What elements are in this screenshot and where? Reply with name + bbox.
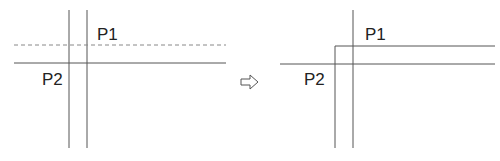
label-p1: P1 <box>97 25 118 44</box>
corner-line <box>335 46 495 148</box>
label-p2: P2 <box>42 70 63 89</box>
transform-arrow-icon <box>241 75 258 89</box>
label-p2: P2 <box>304 70 325 89</box>
before-figure: P1 P2 <box>14 10 226 148</box>
diagram: P1 P2 P1 P2 <box>0 0 500 161</box>
after-figure: P1 P2 <box>280 10 495 148</box>
label-p1: P1 <box>365 25 386 44</box>
